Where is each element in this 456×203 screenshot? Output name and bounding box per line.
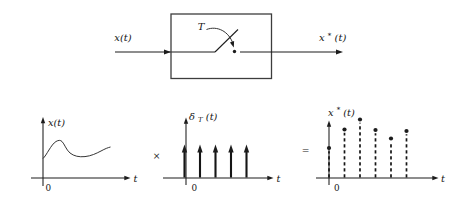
delta-sub: T	[198, 116, 204, 124]
sample-dot	[404, 129, 408, 133]
y-axis-arrowhead-icon	[184, 118, 188, 124]
plot-ylabel: x(t)	[48, 117, 65, 128]
plot-ylabel: δ T (t)	[189, 111, 218, 124]
impulse-arrowhead-icon	[228, 145, 233, 153]
switch-contact-dot	[233, 50, 236, 53]
plot-xlabel: t	[277, 173, 281, 184]
plot-xlabel: t	[441, 173, 445, 184]
y-axis-arrowhead-icon	[41, 117, 45, 123]
impulse-arrowhead-icon	[213, 145, 218, 153]
delta-base: δ	[189, 111, 195, 122]
sampler-block-diagram: x(t) T x * (t)	[114, 14, 346, 79]
x-axis-arrowhead-icon	[432, 176, 438, 180]
origin-label: 0	[334, 183, 340, 193]
sample-dot	[327, 146, 331, 150]
equals-operator: =	[302, 145, 310, 156]
sample-dot	[342, 127, 346, 131]
output-label-sup: *	[328, 32, 332, 40]
sample-dot	[389, 136, 393, 140]
delta-suffix: (t)	[206, 111, 218, 122]
input-signal-label: x(t)	[114, 32, 132, 43]
signal-curve	[43, 140, 111, 158]
y-axis-arrowhead-icon	[327, 121, 331, 127]
impulse-arrowhead-icon	[197, 145, 202, 153]
sample-dot	[373, 128, 377, 132]
output-arrowhead-icon	[336, 50, 343, 55]
switch-period-label: T	[198, 21, 206, 32]
origin-label: 0	[46, 183, 52, 193]
output-label-base: x	[319, 32, 325, 43]
plot-sampled-signal: x * (t) 0 t	[316, 103, 445, 192]
sample-dot	[358, 117, 362, 121]
plot-input-signal: x(t) 0 t	[31, 117, 138, 193]
sampling-figure: x(t) T x * (t) x(t) 0 t × δ T (t) 0 t	[0, 0, 456, 203]
impulse-arrowhead-icon	[244, 145, 249, 153]
plot-xlabel: t	[134, 173, 138, 184]
plot-impulse-train: δ T (t) 0 t	[163, 111, 281, 193]
input-arrowhead-icon	[164, 50, 171, 55]
origin-label: 0	[192, 183, 198, 193]
impulse-group	[182, 145, 249, 178]
multiply-operator: ×	[153, 150, 161, 161]
sampled-base: x	[328, 107, 334, 118]
sample-stem-group	[327, 117, 409, 177]
output-label-suffix: (t)	[335, 32, 347, 43]
switch-arc	[207, 28, 234, 44]
x-axis-arrowhead-icon	[124, 176, 130, 180]
x-axis-arrowhead-icon	[267, 176, 273, 180]
switch-arc-arrowhead-icon	[230, 41, 234, 48]
sampled-sup: *	[337, 106, 341, 114]
sampled-suffix: (t)	[343, 107, 355, 118]
plot-ylabel: x * (t)	[328, 103, 355, 117]
figure-canvas: x(t) T x * (t) x(t) 0 t × δ T (t) 0 t	[0, 0, 456, 203]
output-signal-label: x * (t)	[319, 29, 346, 43]
